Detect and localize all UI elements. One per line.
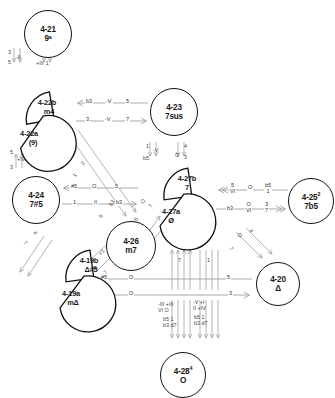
node-4-21[interactable]: 4-21 9ᵃ — [24, 10, 72, 58]
arrow-27-25-bot-l: b3 — [226, 206, 234, 212]
ann-4-23-l-b: -V — [153, 147, 158, 153]
ann-4-21-r-b: +III — [36, 60, 44, 66]
ann-bot-up-7: 7 — [178, 257, 181, 263]
arrow-19-20-top-r: 5 — [226, 275, 231, 281]
annotation-4-21-left-b: 5 — [8, 60, 11, 66]
arrow-group-27-25: 5VI O b51 b3 OVI 37 — [214, 184, 290, 218]
node-4-25-set: 4-252 — [302, 191, 320, 202]
arrow-24-26-bot-l: 1 — [72, 200, 77, 206]
arrow-19-20-bot-r: 3 — [228, 291, 233, 297]
node-4-21-chord: 9ᵃ — [44, 34, 51, 43]
node-4-25[interactable]: 4-252 7b5 — [288, 178, 334, 224]
node-4-26-set: 4-26 — [123, 237, 139, 246]
arrow-27-25-top-r: b51 — [264, 183, 272, 194]
node-4-20[interactable]: 4-20 Δ — [256, 262, 300, 306]
arrow-group-24-26: #5 O 5 1 II b3 — [60, 182, 140, 212]
arrow-19-20-top-m: O — [128, 275, 134, 281]
annotation-4-21-left-mid: -II — [16, 55, 21, 61]
node-4-28-sup: 4 — [189, 365, 192, 371]
arrow-24-26-bot-r: b3 — [115, 200, 123, 206]
node-4-21-set: 4-21 — [40, 25, 56, 34]
node-4-20-chord: Δ — [275, 284, 281, 293]
ann-4-23-r-c: 3 — [184, 154, 187, 160]
arrow-group-22-23: b3 -V 5 3 -V 7 — [74, 96, 150, 128]
arrow-24-26-top-r: 5 — [114, 184, 119, 190]
ann-bot-g1-bot: VI O — [158, 308, 173, 314]
arrow-27-25-bot-m: OVI — [245, 202, 252, 213]
arrow-24-26-top-l: #5 — [70, 184, 78, 190]
ann-bot-g3-bot: b3 d7 — [163, 323, 177, 329]
node-4-28-chord: O — [180, 376, 186, 385]
arrow-22-23-bot-m: -V — [104, 117, 112, 123]
annotation-4-23-r3: 3 — [184, 155, 187, 161]
ann-bot-g2-bot: II +IV — [193, 306, 206, 312]
node-4-24-chord: 7#5 — [29, 200, 42, 209]
annotation-4-23-l1: 1 — [146, 144, 149, 150]
annotation-bottom-g1: -III +III VI O — [158, 302, 173, 313]
annotation-bottom-up-7: 7 — [178, 258, 181, 264]
arrow-22-23-bot-r: 7 — [125, 117, 130, 123]
node-4-23-chord: 7sus — [165, 112, 183, 121]
arrow-19-20-bot-m: O — [128, 291, 134, 297]
ann-4-23-l-c: b5 — [143, 155, 149, 161]
annotation-4-24-l3: 3 — [10, 165, 13, 171]
ann-4-21-l-a: 3 — [8, 49, 11, 55]
node-4-28[interactable]: 4-284 O — [160, 352, 206, 398]
node-4-25-sup: 2 — [317, 191, 320, 197]
ann-4-23-r-a: 4 — [184, 143, 187, 149]
arrow-22-23-bot-l: 3 — [85, 117, 90, 123]
annotation-bottom-g3: b5 1 b3 d7 — [163, 317, 177, 328]
ann-4-24-l-c: 3 — [10, 164, 13, 170]
annotation-4-23-l3: b5 — [143, 156, 149, 162]
arrow-22-23-top-l: b3 — [85, 99, 93, 105]
node-4-23-set: 4-23 — [166, 103, 182, 112]
arrow-27-25-bot-r: 37 — [264, 202, 269, 213]
arrow-24-26-bot-m: II — [93, 200, 98, 206]
arrow-24-26-top-m: O — [91, 184, 97, 190]
node-4-19a[interactable]: 4-19a mΔ — [52, 272, 106, 326]
annotation-bottom-up-1: 1 — [207, 258, 210, 264]
annotation-bottom-g4: b5 1 b3 d7 — [194, 315, 208, 326]
arrow-22-23-top-m: -V — [105, 99, 113, 105]
ann-4-23-r-b: O — [175, 152, 179, 158]
node-4-27a[interactable]: 4-27a Ø — [150, 188, 204, 242]
ann-4-21-l-b: 5 — [8, 59, 11, 65]
ann-4-21-l-c: -II — [16, 54, 21, 60]
node-4-23[interactable]: 4-23 7sus — [150, 88, 198, 136]
ann-4-21-r-c: 1 — [44, 60, 49, 66]
arrow-27-25-top-l: 5VI — [229, 183, 236, 194]
node-4-28-set: 4-284 — [174, 365, 192, 376]
node-4-26-chord: m7 — [125, 246, 136, 255]
node-4-20-set: 4-20 — [270, 275, 286, 284]
annotation-4-23-r1: 4 — [184, 144, 187, 150]
node-4-25-chord: 7b5 — [304, 202, 318, 211]
annotation-4-21-left: 3 — [8, 50, 11, 56]
annotation-4-21-right-b: +III1 — [36, 61, 49, 67]
annotation-bottom-g2: -V +I II +IV — [193, 300, 206, 311]
annotation-4-23-r2: O — [175, 153, 179, 159]
ann-bot-g4-bot: b3 d7 — [194, 321, 208, 327]
node-4-24[interactable]: 4-24 7#5 — [12, 176, 60, 224]
ann-4-23-l-a: 1 — [146, 143, 149, 149]
ann-bot-up-1: 1 — [207, 257, 210, 263]
arrow-22-23-top-r: 5 — [125, 99, 130, 105]
node-4-22a[interactable]: 4-22a (9) — [8, 108, 62, 162]
annotation-4-23-l2: -V — [153, 148, 158, 154]
arrow-27-25-top-m: O — [247, 185, 253, 191]
node-4-24-set: 4-24 — [28, 191, 44, 200]
